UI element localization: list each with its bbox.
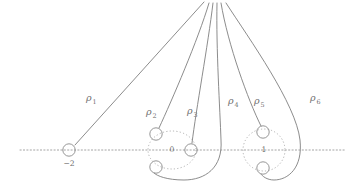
label-rho3-subscript: 3 [193,111,197,119]
label-rho2-subscript: 2 [152,112,156,120]
label-rho5-subscript: 5 [260,101,264,109]
figure-canvas: ρ 1 ρ 2 ρ 3 ρ 4 ρ 5 ρ 6 −2 0 1 [0,0,358,187]
label-rho6-subscript: 6 [316,98,320,106]
node-zero-upper [150,128,162,140]
label-rho4-symbol: ρ [227,95,234,106]
label-rho6: ρ 6 [309,92,320,106]
curve-rho1 [75,2,204,145]
node-minus-two [63,144,75,156]
label-rho3: ρ 3 [186,105,197,119]
label-rho4: ρ 4 [227,95,238,109]
node-zero-right [185,144,197,156]
label-rho6-symbol: ρ [309,92,316,103]
node-one-lower [257,162,269,174]
label-rho4-subscript: 4 [234,101,238,109]
node-one-upper [257,126,269,138]
node-zero-lower [150,161,162,173]
loop-system-diagram: ρ 1 ρ 2 ρ 3 ρ 4 ρ 5 ρ 6 −2 0 1 [0,0,358,187]
label-rho5-symbol: ρ [253,95,260,106]
point-label-minus-two: −2 [63,159,74,168]
label-rho5: ρ 5 [253,95,264,109]
label-rho3-symbol: ρ [186,105,193,116]
point-label-one: 1 [262,145,267,154]
curve-rho5 [221,3,261,126]
label-rho1-subscript: 1 [92,98,96,106]
label-rho2-symbol: ρ [145,106,152,117]
label-rho1: ρ 1 [85,92,96,106]
label-rho2: ρ 2 [145,106,156,120]
point-label-zero: 0 [170,145,175,154]
curve-rho2 [159,3,209,128]
label-rho1-symbol: ρ [85,92,92,103]
